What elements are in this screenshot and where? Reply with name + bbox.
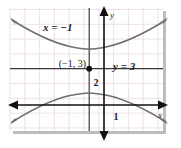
y-axis-label: y <box>109 10 114 20</box>
x-axis-label: x <box>157 110 162 120</box>
hyperbola-figure: x = −1 y = 3 (−1, 3) 2 1 y x <box>0 0 181 148</box>
center-point-marker <box>86 66 92 72</box>
asymptote-vertical-label: x = −1 <box>42 21 72 33</box>
y-tick-label: 2 <box>94 77 99 88</box>
center-point-label: (−1, 3) <box>59 58 86 70</box>
x-tick-label: 1 <box>114 111 119 122</box>
asymptote-horizontal-label: y = 3 <box>111 60 136 72</box>
